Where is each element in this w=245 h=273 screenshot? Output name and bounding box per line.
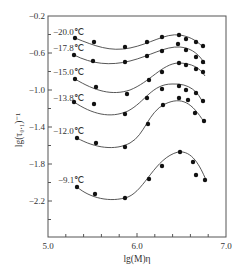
marker	[91, 59, 95, 63]
marker	[201, 70, 205, 74]
marker	[146, 122, 150, 126]
marker	[123, 196, 127, 200]
marker	[160, 164, 164, 168]
marker	[93, 192, 97, 196]
y-tick-label: −1.4	[29, 122, 46, 132]
marker	[203, 178, 207, 182]
marker	[160, 70, 164, 74]
marker	[161, 103, 165, 107]
marker	[184, 88, 188, 92]
y-tick-label: −0.6	[29, 48, 46, 58]
marker	[201, 44, 205, 48]
x-tick-label: 7.0	[220, 241, 232, 251]
marker	[177, 96, 181, 100]
x-tick-label: 6.0	[131, 241, 143, 251]
marker	[147, 78, 151, 82]
marker	[184, 37, 188, 41]
marker	[177, 33, 181, 37]
marker	[194, 173, 198, 177]
marker	[125, 92, 129, 96]
marker	[177, 61, 181, 65]
series-label-minus-15-0: −15.0℃	[53, 67, 84, 77]
curve-minus-12-0	[77, 101, 204, 148]
series-label-minus-9-1: −9.1℃	[58, 175, 84, 185]
marker	[160, 49, 164, 53]
chart: 5.0 6.0 7.0 −0.2 −0.6 −1.0 −1.4 −1.8 −2.…	[0, 0, 245, 273]
marker	[94, 141, 98, 145]
marker	[145, 96, 149, 100]
y-tick-label: −1.8	[29, 159, 46, 169]
marker	[147, 177, 151, 181]
marker	[191, 160, 195, 164]
marker	[145, 54, 149, 58]
marker	[123, 60, 127, 64]
series-label-minus-17-8: −17.8℃	[53, 43, 84, 53]
marker	[177, 84, 181, 88]
y-axis-title: lg(τ₀.₁)⁻¹	[14, 113, 25, 148]
marker	[75, 136, 79, 140]
marker	[123, 145, 127, 149]
marker	[201, 60, 205, 64]
marker	[160, 87, 164, 91]
marker	[194, 55, 198, 59]
marker	[160, 35, 164, 39]
marker	[194, 40, 198, 44]
x-axis-ticks	[66, 233, 208, 237]
x-tick-label: 5.0	[42, 241, 54, 251]
marker	[123, 45, 127, 49]
series-label-minus-13-8: −13.8℃	[53, 93, 84, 103]
x-axis-title: lg(M)η	[123, 254, 150, 265]
marker	[145, 40, 149, 44]
marker	[75, 185, 79, 189]
marker	[184, 63, 188, 67]
y-tick-label: −2.2	[29, 196, 45, 206]
marker	[184, 48, 188, 52]
y-tick-label: −1.0	[29, 85, 46, 95]
series-label-minus-20-0: −20.0℃	[53, 27, 84, 37]
series-label-minus-12-0: −12.0℃	[53, 126, 84, 136]
marker	[72, 53, 76, 57]
marker	[73, 77, 77, 81]
marker	[194, 67, 198, 71]
marker	[176, 42, 180, 46]
marker	[201, 99, 205, 103]
marker	[193, 111, 197, 115]
marker	[123, 112, 127, 116]
marker	[186, 98, 190, 102]
marker	[194, 91, 198, 95]
marker	[202, 119, 206, 123]
y-axis-ticks	[48, 35, 52, 220]
marker	[94, 85, 98, 89]
marker	[92, 102, 96, 106]
marker	[92, 40, 96, 44]
marker	[178, 150, 182, 154]
y-tick-label: −0.2	[29, 11, 45, 21]
